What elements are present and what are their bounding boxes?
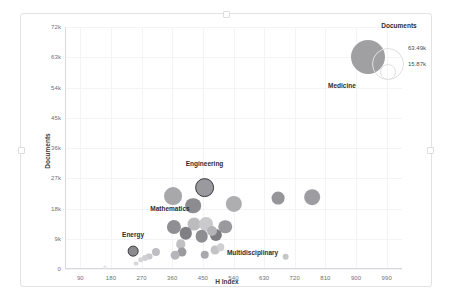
bubble-point[interactable] — [200, 250, 209, 259]
y-tick-label: 27k — [39, 175, 61, 181]
legend-value-1: 63.49k — [408, 45, 426, 51]
bubble-point[interactable] — [171, 251, 180, 260]
bubble-point[interactable] — [134, 261, 139, 266]
bubble-energy[interactable] — [128, 246, 139, 257]
bubble-point[interactable] — [164, 187, 182, 205]
bubble-point[interactable] — [138, 257, 144, 263]
x-tick-label: 540 — [228, 275, 238, 281]
y-tick-label: 0 — [39, 266, 61, 272]
gridline-horizontal — [65, 27, 402, 28]
point-label-energy: Energy — [122, 230, 144, 237]
legend-title: Documents — [368, 22, 430, 29]
x-axis-line — [65, 268, 402, 269]
bubble-point[interactable] — [304, 189, 320, 205]
x-tick-label: 450 — [198, 275, 208, 281]
size-legend: Documents 63.49k15.87k — [368, 22, 430, 84]
plot-area: MedicineEngineeringMathematicsEnergyMult… — [65, 27, 402, 269]
x-tick-label: 90 — [77, 275, 84, 281]
legend-circle-2 — [380, 64, 396, 80]
gridline-horizontal — [65, 118, 402, 119]
bubble-chart: Documents H Index 09k18k27k36k45k54k63k7… — [21, 14, 433, 288]
y-tick-label: 45k — [39, 115, 61, 121]
bubble-multidisciplinary[interactable] — [282, 253, 289, 260]
chart-card: Documents H Index 09k18k27k36k45k54k63k7… — [20, 13, 432, 287]
y-tick-label: 36k — [39, 145, 61, 151]
y-tick-label: 63k — [39, 54, 61, 60]
y-tick-label: 18k — [39, 206, 61, 212]
bubble-point[interactable] — [152, 248, 160, 256]
y-tick-label: 54k — [39, 85, 61, 91]
x-tick-label: 270 — [136, 275, 146, 281]
point-label-engineering: Engineering — [186, 159, 224, 166]
bubble-point[interactable] — [179, 227, 191, 239]
bubble-point[interactable] — [217, 243, 225, 251]
gridline-horizontal — [65, 148, 402, 149]
bubble-point[interactable] — [226, 196, 242, 212]
x-tick-label: 990 — [382, 275, 392, 281]
x-tick-label: 900 — [351, 275, 361, 281]
screenshot-root: Documents H Index 09k18k27k36k45k54k63k7… — [0, 0, 454, 302]
bubble-point[interactable] — [207, 226, 217, 236]
point-label-mathematics: Mathematics — [150, 204, 189, 211]
bubble-point[interactable] — [272, 192, 285, 205]
gridline-horizontal — [65, 178, 402, 179]
y-axis-title: Documents — [44, 133, 51, 168]
y-tick-label: 72k — [39, 24, 61, 30]
point-label-medicine: Medicine — [328, 82, 356, 89]
x-tick-label: 630 — [259, 275, 269, 281]
gridline-horizontal — [65, 239, 402, 240]
bubble-engineering[interactable] — [195, 178, 215, 198]
x-tick-label: 360 — [167, 275, 177, 281]
legend-value-2: 15.87k — [408, 61, 426, 67]
x-tick-label: 720 — [290, 275, 300, 281]
x-tick-label: 180 — [106, 275, 116, 281]
y-axis-line — [65, 27, 66, 269]
gridline-horizontal — [65, 269, 402, 270]
x-tick-label: 810 — [320, 275, 330, 281]
y-tick-label: 9k — [39, 236, 61, 242]
point-label-multidisciplinary: Multidisciplinary — [227, 249, 278, 256]
